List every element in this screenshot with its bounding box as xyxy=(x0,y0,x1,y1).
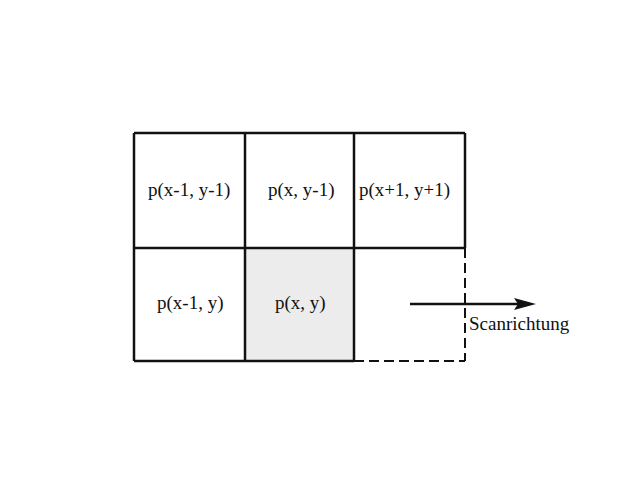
cell-label-top-left: p(x-1, y-1) xyxy=(148,179,230,201)
cell-label-current: p(x, y) xyxy=(275,292,326,314)
scan-direction-label: Scanrichtung xyxy=(469,313,570,334)
grid-extension-left xyxy=(36,133,134,361)
scan-direction-arrow-icon xyxy=(410,298,536,310)
cell-label-top-center: p(x, y-1) xyxy=(268,179,334,201)
grid-extension-bottom xyxy=(134,361,465,472)
grid-extension-top xyxy=(134,30,465,133)
cell-label-top-right: p(x+1, y+1) xyxy=(359,179,450,201)
cell-label-middle-left: p(x-1, y) xyxy=(157,292,223,314)
scan-neighborhood-diagram: p(x-1, y-1) p(x, y-1) p(x+1, y+1) p(x-1,… xyxy=(0,0,630,487)
